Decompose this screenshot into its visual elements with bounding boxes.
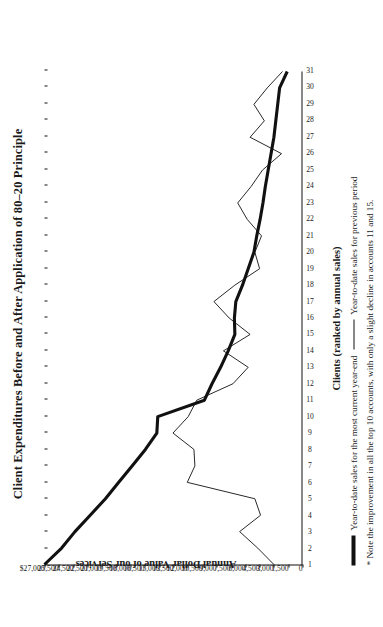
x-tick-label: 4 [305, 513, 314, 517]
x-tick-text: 10 [306, 411, 314, 420]
legend-item-current: Year-to-date sales for the most current … [348, 355, 358, 565]
x-tick-label: 28 [305, 116, 314, 124]
x-tick-text: 11 [306, 395, 313, 404]
x-tick-mark [44, 118, 47, 119]
x-tick-label: 12 [305, 379, 314, 387]
x-tick-text: 22 [306, 214, 314, 223]
x-tick-mark [44, 481, 47, 482]
x-tick-mark [44, 514, 47, 515]
plot-area: $27,00025,50024,50022,50021,00019,50018,… [44, 71, 302, 565]
x-tick-label: 13 [305, 363, 314, 371]
x-tick-label: 6 [305, 480, 314, 484]
x-tick-label: 21 [305, 231, 314, 239]
x-tick-text: 20 [306, 247, 314, 256]
y-tick-mark [302, 564, 303, 567]
x-tick-mark [44, 102, 47, 103]
x-tick-text: 6 [308, 477, 312, 486]
x-tick-label: 17 [305, 297, 314, 305]
x-tick-label: 5 [305, 496, 314, 500]
x-tick-mark [44, 217, 47, 218]
x-tick-text: 15 [306, 329, 314, 338]
x-tick-label: 22 [305, 214, 314, 222]
x-tick-label: 2 [305, 546, 314, 550]
x-tick-text: 7 [308, 461, 312, 470]
x-tick-mark [44, 332, 47, 333]
x-tick-text: 14 [306, 345, 314, 354]
x-tick-text: 21 [306, 230, 314, 239]
x-tick-label: 10 [305, 412, 314, 420]
x-tick-text: 23 [306, 197, 314, 206]
x-tick-text: 5 [308, 494, 312, 503]
legend-label-previous: Year-to-date sales for previous period [348, 176, 358, 314]
x-tick-text: 26 [306, 148, 314, 157]
x-tick-mark [44, 85, 47, 86]
x-tick-mark [44, 530, 47, 531]
x-tick-label: 19 [305, 264, 314, 272]
x-tick-label: 9 [305, 430, 314, 434]
chart-legend: Year-to-date sales for the most current … [348, 65, 358, 565]
x-tick-mark [44, 135, 47, 136]
x-tick-text: 29 [306, 98, 314, 107]
x-tick-text: 28 [306, 115, 314, 124]
x-axis-title: Clients (ranked by annual sales) [330, 71, 341, 565]
x-tick-mark [44, 349, 47, 350]
x-tick-label: 24 [305, 181, 314, 189]
x-tick-text: 4 [308, 510, 312, 519]
rotated-figure-wrapper: Client Expenditures Before and After App… [0, 0, 383, 627]
x-tick-text: 12 [306, 378, 314, 387]
x-tick-mark [44, 267, 47, 268]
thin-line-swatch-icon [353, 319, 354, 349]
x-tick-label: 16 [305, 313, 314, 321]
x-tick-label: 31 [305, 66, 314, 74]
y-tick-mark [288, 564, 289, 567]
chart-lines [44, 71, 301, 564]
thick-line-swatch-icon [351, 535, 354, 565]
x-tick-text: 18 [306, 280, 314, 289]
x-tick-text: 9 [308, 428, 312, 437]
x-tick-text: 8 [308, 444, 312, 453]
x-tick-label: 15 [305, 330, 314, 338]
x-tick-label: 30 [305, 83, 314, 91]
chart-footnote: * Note the improvement in all the top 10… [364, 45, 374, 565]
x-tick-mark [44, 464, 47, 465]
x-tick-mark [44, 316, 47, 317]
x-tick-label: 25 [305, 165, 314, 173]
x-tick-label: 23 [305, 198, 314, 206]
x-tick-label: 14 [305, 346, 314, 354]
x-tick-text: 25 [306, 164, 314, 173]
x-tick-mark [44, 300, 47, 301]
legend-item-previous: Year-to-date sales for previous period [348, 176, 358, 349]
y-tick-text: 0 [298, 564, 302, 573]
x-tick-text: 3 [308, 527, 312, 536]
x-tick-mark [44, 69, 47, 70]
x-tick-label: 27 [305, 132, 314, 140]
x-tick-label: 1 [305, 562, 314, 566]
chart-title: Client Expenditures Before and After App… [10, 0, 25, 627]
x-tick-text: 19 [306, 263, 314, 272]
x-tick-mark [44, 448, 47, 449]
x-tick-label: 26 [305, 149, 314, 157]
x-tick-mark [44, 547, 47, 548]
x-tick-text: 16 [306, 313, 314, 322]
x-tick-mark [44, 431, 47, 432]
line-previous-period [173, 71, 282, 564]
x-tick-mark [44, 151, 47, 152]
x-tick-text: 17 [306, 296, 314, 305]
x-tick-text: 27 [306, 131, 314, 140]
x-tick-mark [44, 382, 47, 383]
x-tick-text: 24 [306, 181, 314, 190]
x-tick-label: 29 [305, 99, 314, 107]
y-tick-label: 1,500 [283, 568, 292, 585]
chart-figure: Client Expenditures Before and After App… [0, 0, 383, 627]
x-tick-label: 11 [305, 396, 314, 403]
x-tick-text: 2 [308, 543, 312, 552]
x-tick-mark [44, 168, 47, 169]
y-axis-title: Annual Dollar Value of our Services [27, 559, 285, 570]
x-tick-mark [44, 497, 47, 498]
x-tick-text: 31 [306, 66, 314, 75]
line-current-year [44, 71, 287, 564]
x-tick-mark [44, 250, 47, 251]
x-tick-label: 20 [305, 247, 314, 255]
x-tick-mark [44, 283, 47, 284]
x-tick-text: 1 [308, 560, 312, 569]
